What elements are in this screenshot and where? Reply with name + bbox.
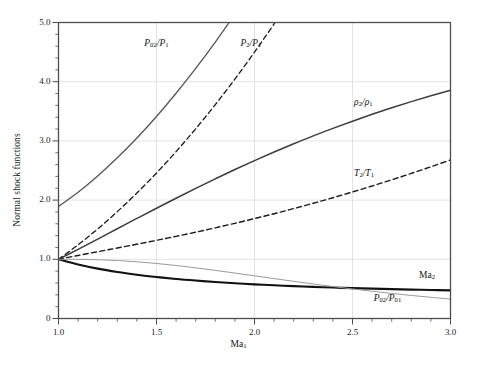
x-tick-label: 1.0	[39, 327, 79, 337]
figure-container: Normal shock functions Ma1 1.01.52.02.53…	[0, 0, 477, 370]
curve-label-ma2: Ma2	[419, 270, 435, 280]
y-tick-label: 4.0	[17, 76, 51, 86]
curve-p02-p1	[59, 0, 431, 206]
x-tick-label: 2.0	[235, 327, 275, 337]
x-tick-label: 1.5	[137, 327, 177, 337]
x-axis-title: Ma1	[0, 339, 477, 349]
x-tick-label: 2.5	[333, 327, 373, 337]
y-tick-label: 2.0	[17, 194, 51, 204]
curve-label-p02-p01: P02/P01	[374, 293, 402, 303]
curve-label-p02-p1: P02/P1	[144, 38, 168, 48]
y-axis-title-wrap: Normal shock functions	[8, 100, 26, 260]
y-tick-label: 0	[17, 313, 51, 323]
y-axis-title: Normal shock functions	[12, 133, 22, 227]
x-tick-label: 3.0	[431, 327, 471, 337]
x-axis-title-text: Ma	[230, 339, 243, 349]
curve-label-rho2-rho1: ρ2/ρ1	[354, 97, 372, 107]
y-tick-label: 3.0	[17, 135, 51, 145]
x-axis-title-subscript: 1	[243, 342, 246, 349]
chart-plot	[0, 0, 477, 370]
y-tick-label: 5.0	[17, 17, 51, 27]
curve-label-t2-t1: T2/T1	[354, 168, 374, 178]
grid-lines	[59, 23, 451, 319]
axis-ticks	[53, 23, 451, 325]
y-tick-label: 1.0	[17, 253, 51, 263]
curve-label-p2-p1: P2/P1	[240, 38, 261, 48]
